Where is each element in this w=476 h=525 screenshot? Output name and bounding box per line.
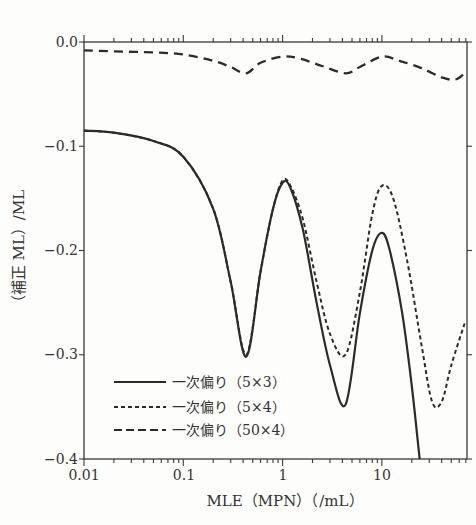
x-tick-label: 0.01 [68, 467, 99, 483]
x-axis-tick-labels: 0.01 0.1 1 10 [68, 467, 391, 483]
legend-label: 一次偏り（5×4） [172, 399, 286, 415]
y-tick-label: −0.1 [44, 138, 78, 154]
y-tick-label: −0.2 [44, 242, 78, 258]
series-line-dotted [84, 131, 465, 408]
legend-label: 一次偏り（50×4） [172, 422, 294, 438]
legend: 一次偏り（5×3） 一次偏り（5×4） 一次偏り（50×4） [114, 374, 294, 438]
y-axis-tick-labels: 0.0 −0.1 −0.2 −0.3 −0.4 [44, 34, 78, 467]
y-tick-label: −0.4 [44, 451, 78, 467]
chart: 0.01 0.1 1 10 0.0 −0.1 −0.2 −0.3 −0.4 ML… [0, 0, 476, 525]
plot-frame [84, 42, 467, 459]
x-tick-label: 10 [373, 467, 391, 483]
y-axis-title: （補正 ML）/ML [10, 190, 28, 311]
x-axis-title: MLE（MPN）（/mL） [206, 492, 363, 510]
legend-label: 一次偏り（5×3） [172, 374, 286, 390]
data-series [84, 50, 465, 459]
y-tick-label: 0.0 [56, 34, 78, 50]
series-line-dashed [84, 50, 465, 79]
x-tick-label: 1 [279, 467, 288, 483]
x-tick-label: 0.1 [173, 467, 195, 483]
y-tick-label: −0.3 [44, 346, 78, 362]
